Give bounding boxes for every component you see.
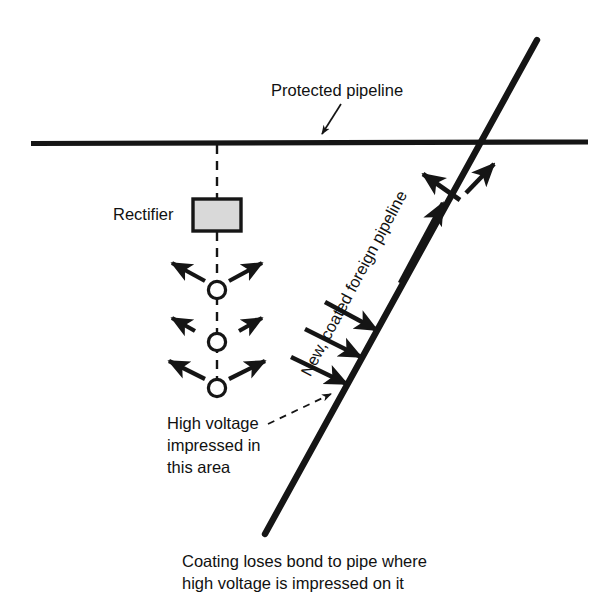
current-arrow-crossing-right bbox=[466, 164, 494, 193]
anode-symbol-middle bbox=[208, 333, 225, 350]
current-arrow-anode-middle-right bbox=[239, 318, 262, 331]
anode-symbol-bottom bbox=[208, 379, 225, 396]
high-voltage-line-1: High voltage bbox=[167, 414, 259, 432]
current-arrow-anode-top-left bbox=[172, 263, 205, 281]
protected-pipeline-leader bbox=[322, 104, 341, 134]
protected-pipeline-label: Protected pipeline bbox=[271, 80, 403, 102]
high-voltage-leader-dashed bbox=[268, 394, 331, 424]
current-arrow-crossing-along-pipe bbox=[400, 203, 443, 283]
anode-symbol-top bbox=[208, 281, 225, 298]
foreign-pipeline-line bbox=[265, 40, 537, 534]
caption-line-1: Coating loses bond to pipe where bbox=[182, 551, 427, 573]
current-arrow-anode-middle-left bbox=[172, 318, 195, 331]
rectifier-box bbox=[193, 199, 241, 231]
diagram-canvas: Protected pipeline Rectifier High voltag… bbox=[0, 0, 601, 615]
current-arrow-anode-top-right bbox=[229, 263, 262, 281]
high-voltage-line-2: impressed in bbox=[167, 436, 261, 454]
current-arrow-anode-bottom-left bbox=[169, 361, 205, 379]
protected-pipeline-line bbox=[31, 142, 588, 144]
high-voltage-line-3: this area bbox=[167, 458, 230, 476]
figure-caption: Coating loses bond to pipe wherehigh vol… bbox=[182, 551, 427, 595]
caption-line-2: high voltage is impressed on it bbox=[182, 573, 427, 595]
high-voltage-annotation: High voltageimpressed inthis area bbox=[167, 413, 261, 478]
rectifier-label: Rectifier bbox=[113, 204, 174, 226]
current-arrow-anode-bottom-right bbox=[229, 361, 265, 379]
